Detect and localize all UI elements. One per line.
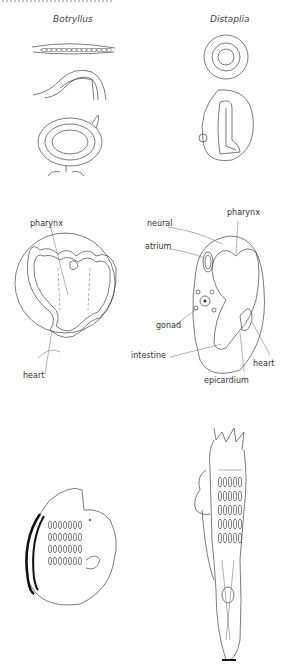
stigma <box>233 505 236 515</box>
stigma <box>218 491 221 501</box>
cell <box>57 49 61 52</box>
label-gonad: gonad <box>156 321 181 330</box>
stigma <box>233 491 236 501</box>
stigma <box>223 519 226 529</box>
botryllus-stage-1 <box>32 44 115 54</box>
stigma <box>238 519 241 529</box>
stigma <box>79 545 82 553</box>
stigma <box>228 533 231 543</box>
cell <box>97 49 101 52</box>
stigma <box>54 533 57 541</box>
label-pharynx-right: pharynx <box>227 208 260 217</box>
stigma <box>223 477 226 487</box>
cell <box>67 49 71 52</box>
stigma <box>228 519 231 529</box>
stigma <box>64 533 67 541</box>
stigma <box>79 521 82 529</box>
label-intestine: intestine <box>131 351 166 360</box>
stigma <box>74 533 77 541</box>
botryllus-zooid-illustration <box>26 488 117 605</box>
stigma <box>54 557 57 565</box>
label-pharynx-left: pharynx <box>30 219 63 228</box>
stigma <box>238 533 241 543</box>
cell <box>87 49 91 52</box>
stigma <box>228 505 231 515</box>
stigma <box>223 491 226 501</box>
cell <box>102 49 106 52</box>
stigma <box>64 545 67 553</box>
stigma <box>49 521 52 529</box>
label-neural: neural <box>147 219 172 228</box>
stigma <box>218 477 221 487</box>
stigma <box>59 545 62 553</box>
stigma <box>69 533 72 541</box>
stigma <box>238 477 241 487</box>
cell <box>42 49 46 52</box>
stigma <box>64 557 67 565</box>
botryllus-pharynx-diagram <box>15 225 116 374</box>
distaplia-stage-2 <box>199 90 253 161</box>
stigma <box>64 521 67 529</box>
botryllus-stage-2 <box>33 70 106 100</box>
distaplia-zooid-illustration <box>195 428 246 660</box>
stigma <box>233 519 236 529</box>
stigma <box>74 557 77 565</box>
stigma <box>69 521 72 529</box>
stigma <box>69 545 72 553</box>
label-heart-left: heart <box>23 371 44 380</box>
cell <box>82 49 86 52</box>
botryllus-stage-3 <box>38 115 102 176</box>
stigma <box>228 477 231 487</box>
stigma <box>238 505 241 515</box>
figure-drawings <box>0 0 281 666</box>
stigma <box>223 505 226 515</box>
label-atrium: atrium <box>145 242 171 251</box>
stigma <box>59 557 62 565</box>
stigma <box>218 505 221 515</box>
stigma <box>49 545 52 553</box>
stigma <box>233 533 236 543</box>
stigma <box>79 557 82 565</box>
cell <box>77 49 81 52</box>
distaplia-pharynx-diagram <box>168 221 270 373</box>
cell <box>47 49 51 52</box>
stigma <box>54 521 57 529</box>
stigma <box>54 545 57 553</box>
stigma <box>228 491 231 501</box>
cell <box>52 49 56 52</box>
stigma <box>233 477 236 487</box>
label-heart-right: heart <box>253 359 274 368</box>
stigma <box>59 521 62 529</box>
stigma <box>74 545 77 553</box>
stigma <box>74 521 77 529</box>
stigma <box>79 533 82 541</box>
cell <box>107 49 111 52</box>
cell <box>72 49 76 52</box>
stigma <box>238 491 241 501</box>
label-epicardium: epicardium <box>204 376 249 385</box>
stigma <box>59 533 62 541</box>
distaplia-stage-1 <box>204 35 248 79</box>
stigma <box>49 533 52 541</box>
stigma <box>69 557 72 565</box>
stigma <box>49 557 52 565</box>
cell <box>62 49 66 52</box>
stigma <box>218 519 221 529</box>
cell <box>92 49 96 52</box>
stigma <box>223 533 226 543</box>
stigma <box>218 533 221 543</box>
